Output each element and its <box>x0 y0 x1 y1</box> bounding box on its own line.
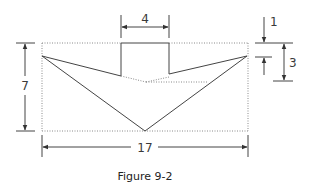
figure-diagram: 4 7 17 1 3 Figure 9-2 <box>0 0 312 187</box>
dimension-right-large-label: 3 <box>289 56 297 70</box>
figure-caption: Figure 9-2 <box>117 170 172 183</box>
dimension-bottom-label: 17 <box>137 141 152 155</box>
bounding-rectangle <box>42 43 248 131</box>
hidden-lines <box>121 76 208 82</box>
dimension-left-label: 7 <box>21 79 29 93</box>
dimension-top-label: 4 <box>141 12 149 26</box>
dimension-right-small-label: 1 <box>270 15 278 29</box>
shape-outline <box>42 43 247 131</box>
